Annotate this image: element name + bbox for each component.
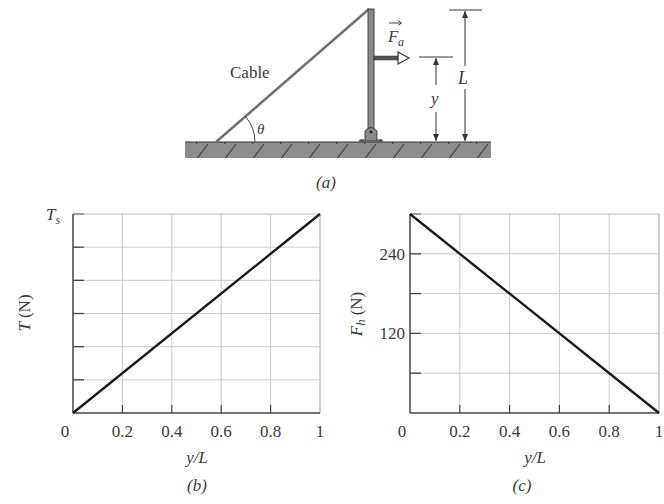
y-tick-label: 120	[380, 324, 406, 343]
force-label: F a	[387, 21, 404, 50]
figure: θ Cable F a y	[0, 0, 664, 504]
pole	[368, 9, 374, 134]
chart-c: 00.20.40.60.81120240	[380, 214, 664, 441]
cable-label: Cable	[230, 63, 270, 82]
series-line-fh	[410, 214, 659, 413]
x-tick-label: 0	[61, 422, 70, 441]
pole-pin	[370, 131, 373, 134]
chart-b-xlabel: y/L	[184, 448, 208, 467]
angle-label: θ	[257, 121, 265, 137]
x-tick-label: 0.8	[260, 422, 281, 441]
x-tick-label: 0.4	[161, 422, 183, 441]
x-tick-label: 0.6	[549, 422, 570, 441]
x-tick-label: 1	[316, 422, 325, 441]
chart-c-xlabel: y/L	[522, 448, 546, 467]
x-tick-label: 0.4	[499, 422, 521, 441]
chart-b-labels: T(N) y/L (b)	[15, 294, 208, 495]
svg-text:a: a	[398, 35, 404, 49]
diagram-a: θ Cable F a y	[185, 9, 491, 192]
chart-c-labels: Fh(N) y/L (c)	[347, 292, 546, 495]
chart-b-caption: (b)	[187, 476, 207, 495]
caption-a: (a)	[316, 173, 336, 192]
x-tick-label: 0.2	[112, 422, 133, 441]
x-tick-label: 0.8	[599, 422, 620, 441]
ground	[185, 142, 491, 158]
y-tick-label: 240	[380, 245, 406, 264]
length-label: L	[457, 68, 468, 88]
base-bolt-right	[377, 139, 383, 142]
x-tick-label: 1	[655, 422, 664, 441]
x-tick-label: 0.6	[211, 422, 232, 441]
chart-c-caption: (c)	[513, 476, 532, 495]
y-tick-label: Ts	[46, 205, 60, 227]
chart-b: 00.20.40.60.81Ts	[46, 205, 324, 441]
x-tick-label: 0	[398, 422, 407, 441]
force-arrow	[374, 52, 409, 64]
pole-base	[365, 128, 377, 142]
chart-b-ylabel: T(N)	[15, 294, 34, 331]
base-bolt-left	[359, 139, 365, 142]
x-tick-label: 0.2	[449, 422, 470, 441]
angle-arc	[246, 117, 256, 143]
height-label: y	[429, 89, 439, 108]
chart-c-ylabel: Fh(N)	[347, 292, 368, 338]
